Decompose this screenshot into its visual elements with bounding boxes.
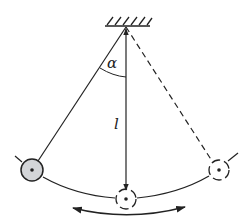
string-displaced bbox=[38, 27, 126, 161]
bob-center bbox=[116, 189, 136, 209]
oscillation-arrow bbox=[73, 207, 185, 215]
ceiling-support bbox=[105, 17, 152, 26]
pendulum-diagram: α l bbox=[0, 0, 244, 220]
bob-right bbox=[209, 153, 238, 180]
angle-label: α bbox=[107, 54, 117, 72]
swing-path-right bbox=[137, 176, 209, 198]
swing-path bbox=[43, 177, 115, 198]
length-label: l bbox=[114, 115, 119, 133]
string-mirror-dashed bbox=[126, 27, 212, 161]
